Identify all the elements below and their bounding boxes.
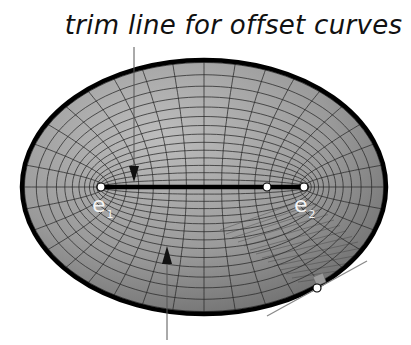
label-e2-sub: 2 [309, 208, 316, 221]
label-e2-base: e [294, 192, 308, 217]
tangent-point [313, 284, 321, 292]
label-e1-sub: 1 [107, 208, 114, 221]
diagram-title: trim line for offset curves [28, 10, 411, 40]
diagram-canvas [0, 0, 411, 345]
label-e1: e1 [92, 194, 114, 220]
focus-e1-point [97, 183, 105, 191]
inner-point [263, 183, 271, 191]
focus-e2-point [300, 183, 308, 191]
label-e1-base: e [92, 192, 106, 217]
ellipse-diagram: trim line for offset curves e1 e2 [0, 0, 411, 345]
label-e2: e2 [294, 194, 316, 220]
